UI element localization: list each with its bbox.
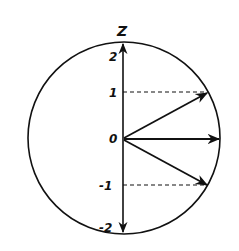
tick-label-2: 2	[109, 50, 117, 64]
tick-label-1: 1	[109, 86, 117, 100]
space-quantization-diagram: Z 2 1 0 -1 -2	[0, 0, 239, 251]
tick-label-0: 0	[109, 132, 117, 146]
vector-m-1	[124, 140, 207, 185]
tick-label-minus-1: -1	[99, 179, 112, 193]
tick-label-minus-2: -2	[99, 221, 112, 235]
axis-label-z: Z	[116, 23, 128, 39]
vector-m1	[124, 93, 207, 138]
